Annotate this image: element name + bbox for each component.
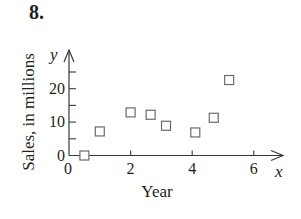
data-point-square-icon	[95, 127, 104, 136]
x-axis-title: Year	[141, 182, 173, 201]
data-point-square-icon	[80, 151, 89, 160]
data-points	[80, 76, 234, 160]
scatter-figure: 8. Sales, in millions Year y x 0246 0102…	[0, 0, 301, 219]
y-tick-label: 0	[57, 147, 65, 164]
data-point-square-icon	[146, 110, 155, 119]
x-tick-label: 2	[127, 160, 135, 177]
data-point-square-icon	[162, 121, 171, 130]
y-ticks: 01020	[49, 72, 76, 164]
x-ticks: 0246	[64, 151, 258, 177]
axes: y x	[48, 45, 283, 181]
data-point-square-icon	[126, 108, 135, 117]
y-axis-variable: y	[48, 45, 58, 64]
x-tick-label: 6	[250, 160, 258, 177]
y-tick-label: 20	[49, 80, 65, 97]
data-point-square-icon	[191, 128, 200, 137]
y-tick-label: 10	[49, 113, 65, 130]
data-point-square-icon	[209, 113, 218, 122]
scatter-plot: Sales, in millions Year y x 0246 01020	[0, 0, 301, 219]
x-axis-variable: x	[274, 162, 283, 181]
y-axis-title: Sales, in millions	[19, 53, 38, 171]
problem-number: 8.	[29, 1, 44, 24]
data-point-square-icon	[225, 76, 234, 85]
x-tick-label: 0	[64, 160, 72, 177]
x-tick-label: 4	[188, 160, 196, 177]
